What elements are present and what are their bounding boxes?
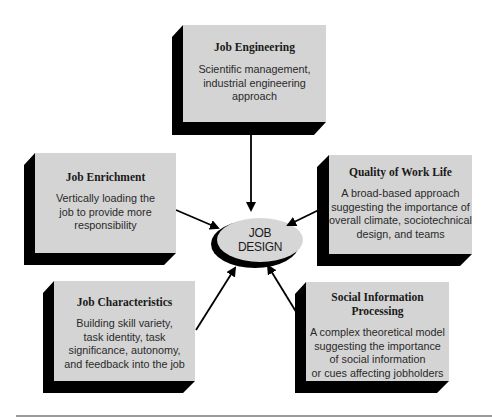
box-quality-of-work-life: Quality of Work Life A broad-based appro… — [329, 155, 472, 254]
box-description-line: of social information — [306, 353, 449, 367]
arrow-from-job-enrichment — [176, 210, 218, 228]
box-description-line: task identity, task — [54, 331, 195, 345]
box-title: Social Information — [306, 290, 449, 304]
box-description-line: design, and teams — [329, 228, 472, 242]
box-job-enrichment: Job Enrichment Vertically loading the jo… — [35, 153, 176, 253]
box-description-line: overall climate, sociotechnical — [329, 214, 472, 228]
box-description-line: industrial engineering — [183, 77, 326, 91]
box-description-line: A broad-based approach — [329, 187, 472, 201]
box-description-line: responsibility — [35, 219, 176, 233]
bottom-divider — [16, 415, 492, 417]
arrow-from-job-characteristics — [196, 268, 235, 330]
job-design-label-line1: JOB — [222, 226, 298, 240]
box-description-line: and feedback into the job — [54, 358, 195, 372]
box-description-line: suggesting the importance of — [329, 201, 472, 215]
job-design-label-line2: DESIGN — [222, 240, 298, 254]
box-job-characteristics: Job Characteristics Building skill varie… — [54, 281, 195, 381]
box-title: Quality of Work Life — [329, 165, 472, 179]
box-description-line: significance, autonomy, — [54, 344, 195, 358]
box-description-line: Building skill variety, — [54, 317, 195, 331]
box-description-line: Scientific management, — [183, 63, 326, 77]
box-description-line: Vertically loading the — [35, 192, 176, 206]
job-design-diagram: Job Engineering Scientific management, i… — [0, 0, 492, 418]
job-design-label: JOB DESIGN — [222, 226, 298, 254]
box-job-engineering: Job Engineering Scientific management, i… — [183, 25, 326, 122]
box-description-line: job to provide more — [35, 206, 176, 220]
box-description-line: or cues affecting jobholders — [306, 367, 449, 381]
box-description-line: suggesting the importance — [306, 340, 449, 354]
box-description-line: approach — [183, 90, 326, 104]
box-title: Job Enrichment — [35, 170, 176, 184]
box-title: Processing — [306, 304, 449, 318]
box-title: Job Characteristics — [54, 295, 195, 309]
box-social-information-processing: Social Information Processing A complex … — [306, 282, 449, 381]
box-description-line: A complex theoretical model — [306, 326, 449, 340]
box-title: Job Engineering — [183, 40, 326, 54]
